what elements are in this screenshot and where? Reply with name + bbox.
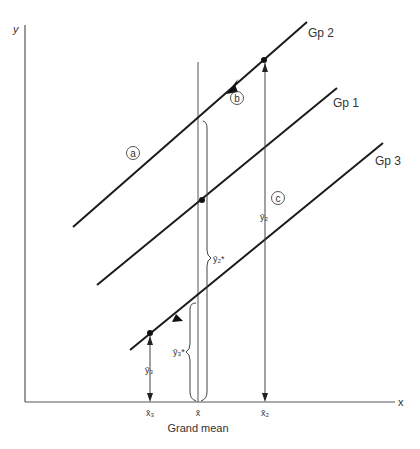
gp3-mean-point — [147, 330, 153, 336]
y2-star-brace — [201, 121, 211, 401]
y2-star-label: ȳ₂* — [213, 254, 225, 264]
y3-star-label: ȳ₃* — [173, 347, 185, 357]
y3-bar-label: ȳ₃ — [145, 365, 154, 375]
svg-text:b: b — [234, 93, 240, 104]
x3-up-arrow — [147, 336, 153, 345]
gp2-mean-point — [261, 57, 267, 63]
gp3-label: Gp 3 — [375, 154, 401, 168]
annotation-b: b — [231, 92, 244, 105]
x2-up-arrow — [262, 63, 268, 72]
gp3-regression-line — [130, 143, 383, 350]
x2-tick-label: x̄₂ — [261, 408, 270, 418]
y3-star-brace — [186, 303, 196, 401]
x3-down-arrow — [147, 393, 153, 402]
x-axis-label: x — [398, 396, 404, 408]
x-grand-tick-label: x̄ — [196, 408, 201, 418]
grand-mean-caption: Grand mean — [167, 422, 228, 434]
gp1-label: Gp 1 — [333, 96, 359, 110]
ancova-diagram: y x Gp 2 Gp 1 Gp 3 a b c ȳ₂ ȳ₃ ȳ₂* ȳ₃* — [0, 0, 420, 449]
annotation-c: c — [272, 192, 285, 205]
y-axis-label: y — [12, 23, 20, 35]
svg-text:c: c — [276, 193, 281, 204]
x2-down-arrow — [262, 393, 268, 402]
annotation-a: a — [127, 147, 140, 160]
svg-text:a: a — [130, 148, 136, 159]
y2-bar-label: ȳ₂ — [260, 212, 269, 222]
x3-tick-label: x̄₃ — [146, 408, 155, 418]
gp2-label: Gp 2 — [308, 26, 334, 40]
gp1-mean-point — [199, 197, 205, 203]
